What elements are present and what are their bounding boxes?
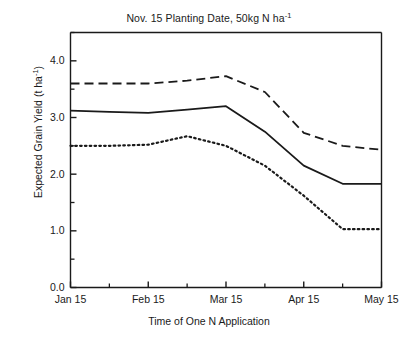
- y-tick-label: 0.0: [50, 281, 65, 293]
- y-axis-ticks: 0.01.02.03.04.0: [50, 33, 77, 294]
- x-tick-label: Feb 15: [132, 293, 165, 305]
- y-tick-label: 4.0: [50, 54, 65, 66]
- plot-area: 0.01.02.03.04.0 Jan 15Feb 15Mar 15Apr 15…: [0, 0, 418, 340]
- series-line-upper: [71, 76, 382, 150]
- y-tick-label: 3.0: [50, 111, 65, 123]
- series-line-lower: [71, 136, 382, 229]
- x-axis-ticks: Jan 15Feb 15Mar 15Apr 15May 15: [55, 282, 399, 305]
- data-series-group: [71, 76, 382, 229]
- axis-frame: [71, 33, 382, 288]
- y-tick-label: 1.0: [50, 224, 65, 236]
- x-tick-label: Apr 15: [288, 293, 319, 305]
- y-tick-label: 2.0: [50, 168, 65, 180]
- x-tick-label: Mar 15: [210, 293, 243, 305]
- x-tick-label: May 15: [364, 293, 399, 305]
- x-tick-label: Jan 15: [55, 293, 87, 305]
- chart-figure: Nov. 15 Planting Date, 50kg N ha-1 Expec…: [0, 0, 418, 340]
- series-line-middle: [71, 106, 382, 184]
